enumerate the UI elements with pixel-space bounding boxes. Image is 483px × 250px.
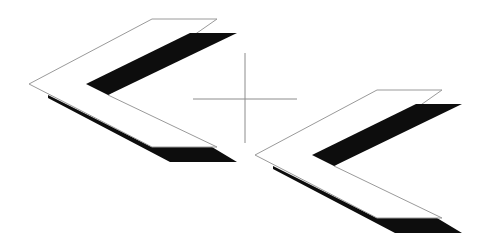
crosshair-icon bbox=[193, 53, 297, 143]
diagram-svg bbox=[0, 0, 483, 250]
diagram-canvas bbox=[0, 0, 483, 250]
chevron-left bbox=[29, 19, 237, 162]
chevron-right bbox=[255, 90, 462, 233]
